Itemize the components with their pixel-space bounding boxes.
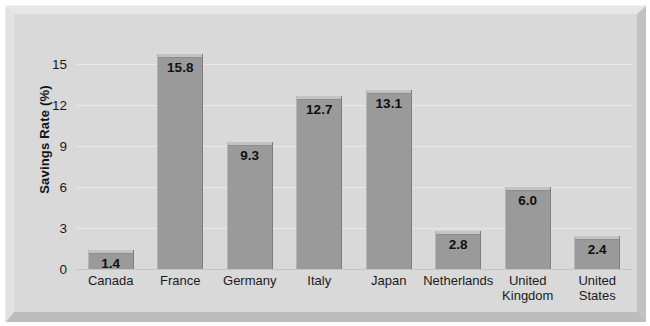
bar-value-label: 15.8 [167, 60, 193, 75]
y-tick-label: 3 [59, 221, 67, 236]
bar[interactable]: 2.4 [574, 236, 620, 269]
x-tick-label: Canada [88, 274, 134, 289]
bar-top-highlight [297, 96, 341, 100]
bar[interactable]: 6.0 [505, 187, 551, 269]
x-tick-label: Netherlands [423, 274, 493, 289]
bar-value-label: 2.4 [588, 242, 607, 257]
bar-group: 15.8France [146, 44, 216, 269]
bar-top-highlight [575, 236, 619, 240]
bar-group: 12.7Italy [285, 44, 355, 269]
y-tick-label: 0 [59, 262, 67, 277]
x-tick-label: United States [578, 274, 616, 303]
bar-top-highlight [158, 54, 202, 58]
x-axis-line [76, 269, 632, 270]
bar-top-highlight [228, 142, 272, 146]
x-tick-label: Germany [223, 274, 276, 289]
bar-value-label: 1.4 [101, 256, 120, 271]
bar[interactable]: 12.7 [296, 96, 342, 269]
bar-top-highlight [436, 231, 480, 235]
bar[interactable]: 9.3 [227, 142, 273, 269]
bar-value-label: 12.7 [306, 102, 332, 117]
bar-group: 9.3Germany [215, 44, 285, 269]
bar-group: 1.4Canada [76, 44, 146, 269]
bar-group: 2.4United States [563, 44, 633, 269]
y-tick-label: 6 [59, 180, 67, 195]
bar-value-label: 9.3 [240, 148, 259, 163]
bar-top-highlight [89, 250, 133, 254]
y-axis-title: Savings Rate (%) [37, 55, 52, 225]
x-tick-label: United Kingdom [502, 274, 553, 303]
chart-figure: Savings Rate (%) 036912151.4Canada15.8Fr… [5, 5, 645, 321]
x-tick-label: Japan [371, 274, 406, 289]
plot-area: 036912151.4Canada15.8France9.3Germany12.… [76, 44, 632, 269]
x-tick-label: France [160, 274, 200, 289]
bar[interactable]: 13.1 [366, 90, 412, 269]
bar[interactable]: 15.8 [157, 54, 203, 269]
x-tick-label: Italy [307, 274, 331, 289]
bar[interactable]: 1.4 [88, 250, 134, 269]
y-tick-label: 15 [52, 57, 67, 72]
bar-group: 13.1Japan [354, 44, 424, 269]
bar-value-label: 13.1 [376, 96, 402, 111]
bar-top-highlight [367, 90, 411, 94]
bar-value-label: 2.8 [449, 237, 468, 252]
bar-top-highlight [506, 187, 550, 191]
y-tick-label: 12 [52, 98, 67, 113]
bar[interactable]: 2.8 [435, 231, 481, 269]
bar-group: 6.0United Kingdom [493, 44, 563, 269]
bar-group: 2.8Netherlands [424, 44, 494, 269]
y-tick-label: 9 [59, 139, 67, 154]
chart-plot-panel: Savings Rate (%) 036912151.4Canada15.8Fr… [14, 14, 637, 312]
bar-value-label: 6.0 [518, 193, 537, 208]
